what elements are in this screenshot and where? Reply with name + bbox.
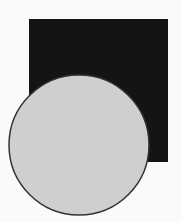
diagram-canvas	[0, 0, 181, 222]
gray-circle	[9, 75, 149, 215]
